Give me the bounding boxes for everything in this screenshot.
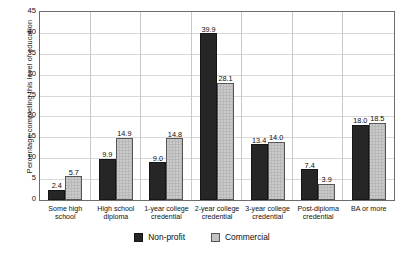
y-tick-label: 40 xyxy=(2,28,36,36)
y-tick-label: 25 xyxy=(2,91,36,99)
bar-pair: 39.928.1 xyxy=(200,33,234,200)
x-tick-label: Some highschool xyxy=(40,205,91,222)
bar-commercial: 14.8 xyxy=(166,138,183,200)
bar-group: 2.45.7 xyxy=(40,12,91,200)
bar-commercial: 28.1 xyxy=(217,83,234,200)
bar-value-label: 3.9 xyxy=(322,176,332,184)
bar-chart: Percentage completing this level of educ… xyxy=(0,0,404,253)
bar-group: 13.414.0 xyxy=(242,12,293,200)
x-tick-label: 3-year collegecredential xyxy=(242,205,293,222)
bar-commercial: 14.0 xyxy=(268,142,285,200)
bar-commercial: 5.7 xyxy=(65,176,82,200)
bar-commercial: 3.9 xyxy=(318,184,335,200)
bar-nonprofit: 39.9 xyxy=(200,33,217,200)
bar-value-label: 13.4 xyxy=(252,137,266,145)
bar-value-label: 9.0 xyxy=(153,155,163,163)
legend-label: Commercial xyxy=(225,232,270,242)
bar-nonprofit: 18.0 xyxy=(352,125,369,200)
legend-swatch-commercial xyxy=(211,233,220,242)
bar-pair: 13.414.0 xyxy=(251,142,285,200)
bar-nonprofit: 9.0 xyxy=(149,162,166,200)
bar-value-label: 14.8 xyxy=(168,131,182,139)
legend-label: Non-profit xyxy=(148,232,185,242)
y-tick-label: 20 xyxy=(2,111,36,119)
bar-value-label: 18.0 xyxy=(353,117,367,125)
bar-group: 9.014.8 xyxy=(141,12,192,200)
bar-value-label: 2.4 xyxy=(52,182,62,190)
bar-pair: 7.43.9 xyxy=(301,169,335,200)
bar-value-label: 14.0 xyxy=(269,134,283,142)
legend-item[interactable]: Non-profit xyxy=(134,232,185,242)
x-tick-label: High schooldiploma xyxy=(91,205,142,222)
bars-layer: 2.45.79.914.99.014.839.928.113.414.07.43… xyxy=(40,12,394,200)
bar-value-label: 28.1 xyxy=(218,75,232,83)
y-tick-label: 10 xyxy=(2,153,36,161)
bar-nonprofit: 9.9 xyxy=(99,159,116,200)
y-tick-label: 30 xyxy=(2,70,36,78)
bar-commercial: 14.9 xyxy=(116,138,133,200)
legend-item[interactable]: Commercial xyxy=(211,232,270,242)
bar-value-label: 18.5 xyxy=(370,115,384,123)
y-axis-tick-labels: 051015202530354045 xyxy=(0,11,36,201)
bar-pair: 18.018.5 xyxy=(352,123,386,200)
bar-commercial: 18.5 xyxy=(369,123,386,200)
bar-pair: 9.014.8 xyxy=(149,138,183,200)
x-tick-label: 2-year collegecredential xyxy=(192,205,243,222)
x-tick-label: 1-year collegecredential xyxy=(141,205,192,222)
x-tick-label: BA or more xyxy=(343,205,394,222)
legend-swatch-nonprofit xyxy=(134,233,143,242)
x-tick-label: Post-diplomacredential xyxy=(293,205,344,222)
bar-nonprofit: 2.4 xyxy=(48,190,65,200)
bar-nonprofit: 13.4 xyxy=(251,144,268,200)
bar-value-label: 14.9 xyxy=(117,130,131,138)
bar-value-label: 39.9 xyxy=(201,26,215,34)
bar-group: 7.43.9 xyxy=(293,12,344,200)
bar-group: 18.018.5 xyxy=(343,12,394,200)
bar-value-label: 9.9 xyxy=(102,151,112,159)
y-tick-label: 15 xyxy=(2,132,36,140)
bar-pair: 9.914.9 xyxy=(99,138,133,200)
bar-group: 39.928.1 xyxy=(192,12,243,200)
x-axis-category-labels: Some highschoolHigh schooldiploma1-year … xyxy=(40,205,394,222)
bar-pair: 2.45.7 xyxy=(48,176,82,200)
y-tick-label: 5 xyxy=(2,174,36,182)
y-tick-label: 35 xyxy=(2,49,36,57)
chart-legend: Non-profitCommercial xyxy=(0,232,404,242)
y-tick-label: 45 xyxy=(2,7,36,15)
bar-value-label: 5.7 xyxy=(69,169,79,177)
y-tick-label: 0 xyxy=(2,195,36,203)
bar-value-label: 7.4 xyxy=(305,162,315,170)
bar-nonprofit: 7.4 xyxy=(301,169,318,200)
bar-group: 9.914.9 xyxy=(91,12,142,200)
